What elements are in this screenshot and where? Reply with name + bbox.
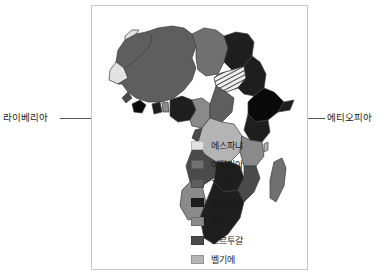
legend-item-italy: 이탈리아 bbox=[191, 155, 277, 174]
legend-item-portugal: 포르투갈 bbox=[191, 231, 277, 250]
legend-swatch-italy bbox=[191, 160, 204, 169]
legend-label-portugal: 포르투갈 bbox=[211, 236, 243, 246]
region-gold-coast bbox=[152, 102, 162, 114]
region-french-equatorial-africa bbox=[210, 86, 234, 122]
legend-swatch-germany bbox=[191, 217, 204, 226]
legend-swatch-spain bbox=[191, 141, 204, 150]
legend-label-germany: 독일 bbox=[211, 217, 227, 227]
legend-label-france: 프랑스 bbox=[211, 179, 235, 189]
figure-frame: 에스파냐 이탈리아 프랑스 잉글랜드 독일 포르투갈 벨기에 bbox=[91, 5, 308, 270]
legend-swatch-france bbox=[191, 179, 204, 188]
legend-item-germany: 독일 bbox=[191, 212, 277, 231]
legend-swatch-portugal bbox=[191, 236, 204, 245]
legend-swatch-england bbox=[191, 198, 204, 207]
legend-swatch-belgium bbox=[191, 255, 204, 264]
legend-item-spain: 에스파냐 bbox=[191, 136, 277, 155]
annotation-label-liberia: 라이베리아 bbox=[3, 112, 48, 123]
legend-item-belgium: 벨기에 bbox=[191, 250, 277, 269]
region-togo bbox=[162, 102, 169, 112]
legend-label-spain: 에스파냐 bbox=[211, 141, 243, 151]
region-liberia bbox=[132, 100, 146, 113]
legend-item-france: 프랑스 bbox=[191, 174, 277, 193]
legend-label-belgium: 벨기에 bbox=[211, 255, 235, 265]
map-legend: 에스파냐 이탈리아 프랑스 잉글랜드 독일 포르투갈 벨기에 bbox=[191, 136, 277, 269]
legend-label-italy: 이탈리아 bbox=[211, 160, 243, 170]
region-libya bbox=[192, 28, 228, 76]
legend-label-england: 잉글랜드 bbox=[211, 198, 243, 208]
annotation-label-ethiopia: 에티오피아 bbox=[327, 112, 372, 123]
legend-item-england: 잉글랜드 bbox=[191, 193, 277, 212]
